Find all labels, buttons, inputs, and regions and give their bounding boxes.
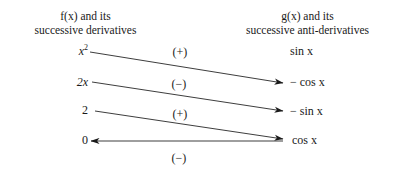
- sign-label-1: (−): [159, 78, 199, 90]
- right-term-1: − cos x: [290, 76, 390, 88]
- right-column-heading: g(x) and its successive anti-derivatives: [225, 9, 390, 37]
- right-term-2: − sin x: [290, 105, 390, 117]
- integration-table-figure: f(x) and its successive derivatives g(x)…: [0, 0, 399, 180]
- sign-label-3: (−): [159, 152, 199, 164]
- left-term-3: 0: [28, 134, 88, 146]
- left-term-2-base: 2: [82, 103, 88, 117]
- right-heading-line-2: successive anti-derivatives: [225, 23, 390, 37]
- left-term-3-base: 0: [82, 133, 88, 147]
- left-column-heading: f(x) and its successive derivatives: [8, 9, 163, 37]
- left-term-0-exponent: 2: [84, 43, 88, 52]
- left-heading-line-1: f(x) and its: [8, 9, 163, 23]
- right-heading-line-1: g(x) and its: [225, 9, 390, 23]
- left-term-2: 2: [28, 104, 88, 116]
- sign-label-2: (+): [160, 108, 200, 120]
- left-term-1-base: 2x: [77, 75, 88, 89]
- right-term-3: cos x: [292, 134, 392, 146]
- left-term-0: x2: [28, 45, 88, 57]
- right-term-0: sin x: [290, 45, 390, 57]
- left-term-1: 2x: [28, 76, 88, 88]
- sign-label-0: (+): [160, 46, 200, 58]
- left-heading-line-2: successive derivatives: [8, 23, 163, 37]
